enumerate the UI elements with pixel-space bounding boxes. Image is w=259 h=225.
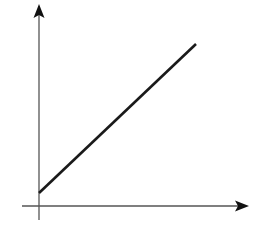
linear-graph-diagram	[0, 0, 259, 225]
